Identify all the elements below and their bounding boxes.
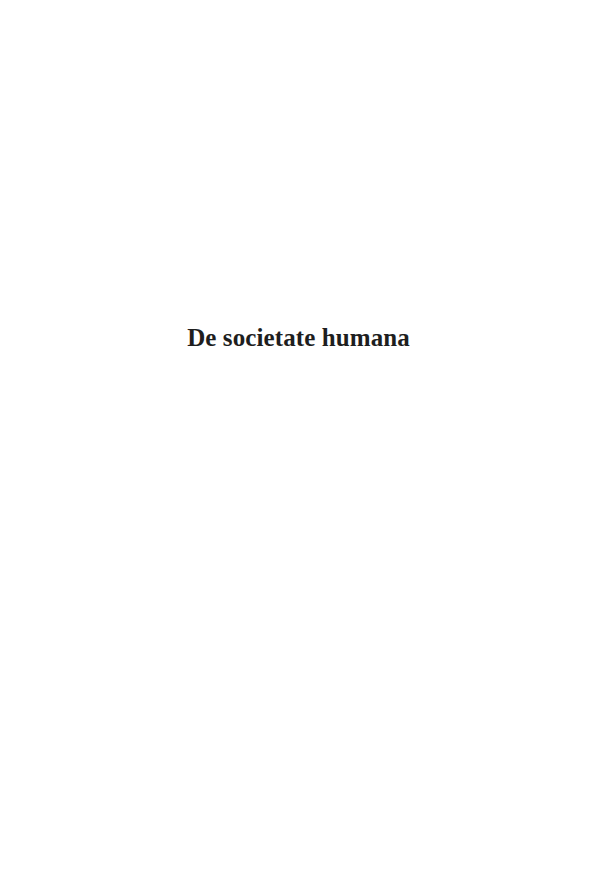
document-page: De societate humana: [0, 0, 593, 896]
page-title: De societate humana: [0, 322, 593, 354]
